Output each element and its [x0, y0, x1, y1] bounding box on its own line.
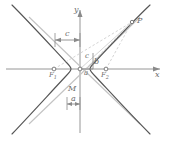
- semi-major-axis-label: a: [84, 70, 88, 77]
- semi-minor-axis-label: b: [94, 58, 99, 66]
- x-axis-label: x: [155, 71, 160, 79]
- left-branch-curve: [12, 5, 71, 134]
- c-dimension-arrow-left: [55, 38, 61, 42]
- focus-left-label: F1: [49, 72, 57, 80]
- point-P-label: P: [137, 17, 142, 25]
- line-origin-to-P: [80, 22, 132, 69]
- line-M-to-P: [67, 22, 132, 88]
- hyperbola-figure: y x F1 F2 P c c b a M a: [0, 0, 170, 141]
- semi-focal-distance-label: c: [65, 30, 69, 38]
- point-P-marker: [130, 20, 133, 23]
- semi-major-bottom-label: a: [71, 95, 76, 103]
- focus-right-label: F2: [101, 72, 109, 80]
- semi-focal-inner-label: c: [85, 53, 89, 60]
- y-axis-label: y: [74, 6, 79, 14]
- c-dimension-arrow-right: [74, 38, 80, 42]
- origin-point: [78, 67, 82, 71]
- midpoint-M-label: M: [68, 85, 76, 93]
